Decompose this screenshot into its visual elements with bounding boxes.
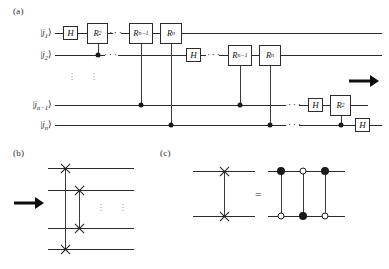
control-line-rn-j1 bbox=[171, 33, 172, 125]
flow-arrow-a bbox=[349, 75, 380, 87]
cnot-line-2 bbox=[303, 171, 304, 216]
wire-label-jn: |jn⟩ bbox=[0, 119, 52, 131]
wire-j1 bbox=[182, 33, 382, 34]
v-ellipsis-b-left: . . . bbox=[100, 201, 102, 211]
wire-b-2 bbox=[48, 190, 134, 191]
wire-b-3 bbox=[48, 228, 134, 229]
h-ellipsis-jn: ··· bbox=[288, 120, 303, 130]
control-dot-rn-1-j2 bbox=[238, 103, 243, 108]
wire-j1 bbox=[153, 33, 160, 34]
h-gate-jn[interactable]: H bbox=[355, 118, 370, 132]
wire-j2 bbox=[281, 55, 382, 56]
flow-arrow-b bbox=[14, 197, 45, 209]
v-ellipsis-left: . . . bbox=[71, 70, 73, 80]
cnot-2-control-filled[interactable] bbox=[299, 212, 307, 220]
h-ellipsis-j1: ··· bbox=[109, 28, 124, 38]
swap-x-icon[interactable] bbox=[74, 223, 85, 234]
control-line-rn-1-j1 bbox=[141, 33, 142, 105]
dot: . bbox=[100, 207, 102, 210]
swap-x-icon[interactable] bbox=[219, 166, 230, 177]
wire-label-j2: |j2⟩ bbox=[0, 49, 52, 61]
control-dot-rn-1-j1 bbox=[139, 103, 144, 108]
control-dot-r2-j1 bbox=[95, 53, 100, 58]
wire-jn bbox=[299, 125, 355, 126]
wire-label-jn-1: |jn−1⟩ bbox=[0, 99, 52, 111]
h-ellipsis-j2b: ··· bbox=[207, 50, 222, 60]
cnot-2-target-open[interactable] bbox=[300, 168, 307, 175]
swap-x-icon[interactable] bbox=[74, 185, 85, 196]
dot: . bbox=[71, 76, 73, 79]
rn-gate-j2[interactable]: Rn bbox=[259, 45, 281, 66]
control-dot-rn-j1 bbox=[169, 123, 174, 128]
h-gate-jn-1[interactable]: H bbox=[308, 98, 323, 112]
wire-j2 bbox=[201, 55, 206, 56]
rn-1-gate-j2[interactable]: Rn−1 bbox=[228, 45, 252, 66]
panel-label-a: (a) bbox=[13, 6, 24, 16]
cnot-1-target-open[interactable] bbox=[278, 213, 285, 220]
swap-x-icon[interactable] bbox=[60, 163, 71, 174]
cnot-1-control-filled[interactable] bbox=[277, 167, 285, 175]
h-gate-j1[interactable]: H bbox=[63, 26, 78, 40]
wire-jn-1 bbox=[323, 105, 330, 106]
v-ellipsis-b-right: . . . bbox=[122, 201, 124, 211]
control-dot-rn-j2 bbox=[268, 123, 273, 128]
swap-x-icon[interactable] bbox=[219, 211, 230, 222]
equals-sign: = bbox=[255, 188, 261, 200]
panel-label-c: (c) bbox=[160, 148, 171, 158]
swap-line-c bbox=[224, 171, 225, 216]
cnot-3-target-open[interactable] bbox=[322, 213, 329, 220]
v-ellipsis-right: . . . bbox=[93, 70, 95, 80]
wire-label-j1: |j1⟩ bbox=[0, 27, 52, 39]
dot: . bbox=[93, 76, 95, 79]
cnot-3-control-filled[interactable] bbox=[321, 167, 329, 175]
wire-j2 bbox=[252, 55, 259, 56]
panel-label-b: (b) bbox=[13, 148, 24, 158]
rn-gate-j1[interactable]: Rn bbox=[160, 23, 182, 44]
wire-j1 bbox=[78, 33, 87, 34]
wire-jn-1 bbox=[351, 105, 368, 106]
h-gate-j2[interactable]: H bbox=[186, 48, 201, 62]
swap-line-outer bbox=[65, 168, 66, 249]
wire-j1 bbox=[55, 33, 63, 34]
cnot-line-3 bbox=[325, 171, 326, 216]
h-ellipsis-jn-1: ··· bbox=[288, 100, 303, 110]
control-dot-r2-jn-1 bbox=[338, 123, 343, 128]
figure-quantum-fourier-transform: (a) |j1⟩ |j2⟩ |jn−1⟩ |jn⟩ H R2 Rn−1 Rn H… bbox=[0, 0, 389, 269]
wire-jn bbox=[370, 125, 382, 126]
cnot-line-1 bbox=[281, 171, 282, 216]
dot: . bbox=[122, 207, 124, 210]
swap-x-icon[interactable] bbox=[60, 244, 71, 255]
wire-j2 bbox=[118, 55, 186, 56]
h-ellipsis-j2: ··· bbox=[104, 50, 119, 60]
control-line-rn-j2 bbox=[270, 55, 271, 125]
r2-gate-j1[interactable]: R2 bbox=[87, 23, 108, 44]
rn-1-gate-j1[interactable]: Rn−1 bbox=[129, 23, 153, 44]
r2-gate-jn-1[interactable]: R2 bbox=[330, 95, 351, 116]
